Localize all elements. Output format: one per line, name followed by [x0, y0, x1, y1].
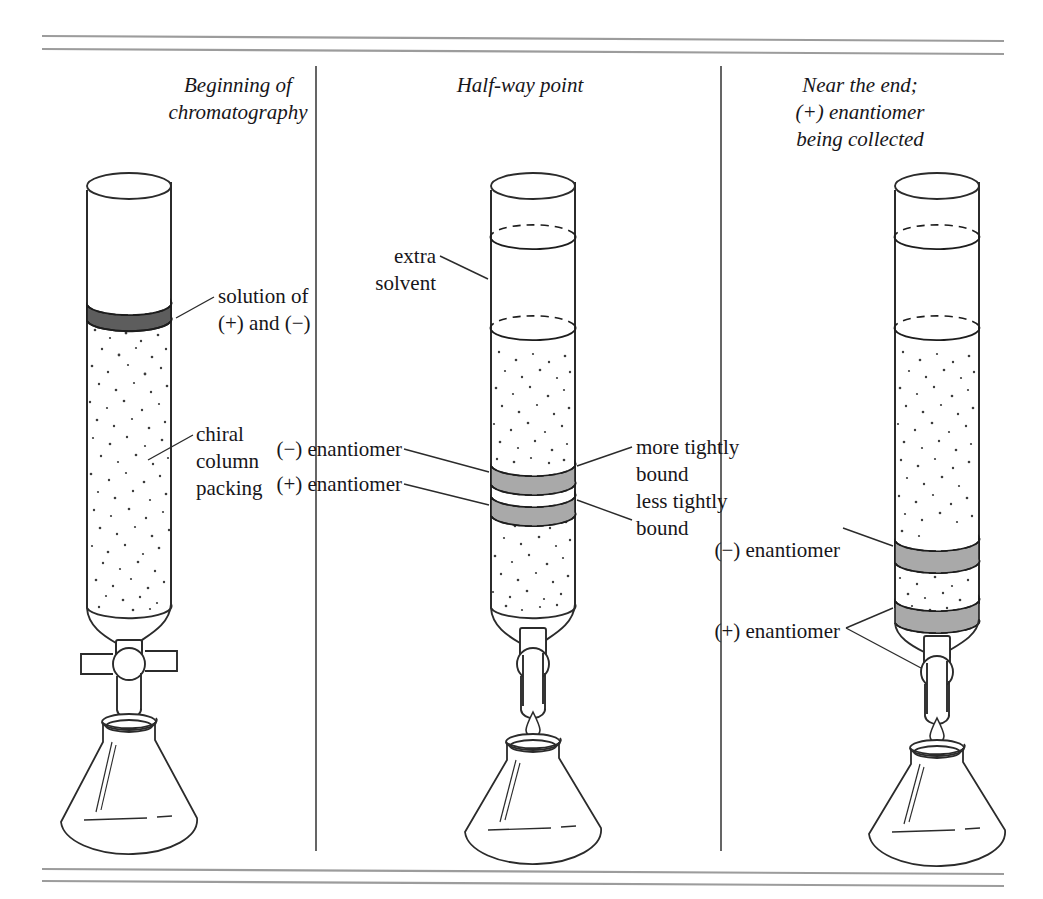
- erlenmeyer-flask-3: [869, 740, 1005, 866]
- column-top-opening-2: [491, 173, 575, 199]
- label-plus-enantiomer-middle: (+) enantiomer: [216, 471, 402, 498]
- leader-minus-3: [843, 528, 893, 546]
- panel-title-halfway: Half-way point: [425, 72, 615, 99]
- column-assembly-3: [843, 173, 1005, 866]
- label-plus-enantiomer-right: (+) enantiomer: [650, 618, 840, 645]
- rule-top-2: [42, 49, 1004, 54]
- solvent-level-upper-3: [894, 225, 979, 249]
- erlenmeyer-flask-2: [465, 734, 601, 864]
- band-minus-2: [491, 462, 576, 495]
- leader-more-bound-2: [577, 447, 632, 466]
- rule-bottom-1: [42, 869, 1004, 874]
- packing-top-level-3: [894, 316, 979, 340]
- solution-band-1: [87, 301, 172, 331]
- chiral-packing-1: [89, 329, 170, 612]
- band-minus-3: [895, 537, 980, 573]
- column-assembly-2: [404, 173, 632, 864]
- panel-title-near-end: Near the end; (+) enantiomer being colle…: [760, 72, 960, 153]
- packing-top-level-2: [490, 316, 575, 340]
- stopcock-1: [81, 604, 177, 718]
- band-plus-3: [895, 597, 980, 633]
- chromatography-figure: Beginning of chromatography Half-way poi…: [0, 0, 1043, 899]
- label-minus-enantiomer-right: (−) enantiomer: [650, 537, 840, 564]
- solvent-level-upper-2: [490, 225, 575, 249]
- label-extra-solvent: extra solvent: [300, 243, 436, 297]
- leader-minus-2: [404, 449, 489, 472]
- panel-title-beginning: Beginning of chromatography: [148, 72, 328, 126]
- stopcock-3: [895, 619, 979, 724]
- leader-less-bound-2: [577, 500, 632, 520]
- band-plus-2: [491, 493, 576, 526]
- leader-extra-solvent-2: [440, 256, 488, 279]
- label-more-tightly-bound: more tightly bound: [636, 434, 796, 488]
- column-assembly-1: [61, 173, 214, 854]
- column-top-opening-3: [895, 173, 979, 199]
- rule-top-1: [42, 36, 1004, 41]
- label-minus-enantiomer-middle: (−) enantiomer: [216, 436, 402, 463]
- erlenmeyer-flask-1: [61, 714, 197, 854]
- leader-solution-1: [176, 297, 214, 318]
- label-less-tightly-bound: less tightly bound: [636, 488, 796, 542]
- stopcock-2: [491, 604, 576, 718]
- leader-plus-2: [404, 484, 489, 505]
- column-top-opening-1: [87, 173, 171, 199]
- rule-bottom-2: [42, 881, 1004, 886]
